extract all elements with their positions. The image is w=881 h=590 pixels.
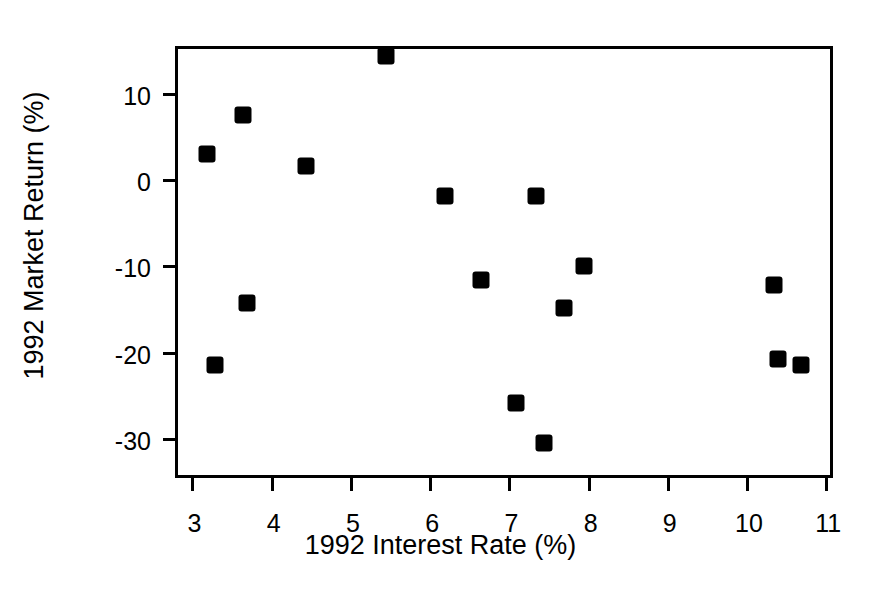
y-axis-tick-label: -30 [115, 428, 151, 453]
data-point [238, 295, 255, 312]
x-axis-tick: 10 [746, 475, 749, 491]
x-axis-tick: 5 [350, 475, 353, 491]
data-point [536, 435, 553, 452]
scatter-plot-figure: 1992 Market Return (%) 100-10-20-30 3456… [0, 0, 881, 590]
data-point [234, 107, 251, 124]
y-axis-title-text: 1992 Market Return (%) [21, 91, 48, 379]
data-point [377, 47, 394, 64]
data-point [528, 188, 545, 205]
y-axis-tick-label: 10 [123, 83, 151, 108]
data-point [769, 350, 786, 367]
x-axis-tick: 4 [271, 475, 274, 491]
data-point [199, 146, 216, 163]
y-axis-tick: 10 [163, 93, 178, 96]
data-point [472, 272, 489, 289]
x-axis-tick: 8 [588, 475, 591, 491]
y-axis-tick-label: -10 [115, 256, 151, 281]
y-axis-tick: -10 [163, 265, 178, 268]
x-axis-title: 1992 Interest Rate (%) [0, 532, 881, 559]
data-point [555, 299, 572, 316]
y-axis-tick: -30 [163, 438, 178, 441]
y-axis-title: 1992 Market Return (%) [14, 0, 54, 470]
plot-frame: 100-10-20-30 34567891011 [175, 46, 833, 478]
data-point [207, 356, 224, 373]
data-point [508, 395, 525, 412]
data-point [298, 158, 315, 175]
data-points-layer [178, 49, 830, 475]
x-axis-title-text: 1992 Interest Rate (%) [305, 530, 577, 560]
x-axis-tick: 11 [825, 475, 828, 491]
data-point [793, 356, 810, 373]
data-point [575, 258, 592, 275]
y-axis-tick-label: -20 [115, 342, 151, 367]
data-point [436, 188, 453, 205]
x-axis-tick: 3 [191, 475, 194, 491]
x-axis-tick: 7 [508, 475, 511, 491]
x-axis-tick: 6 [429, 475, 432, 491]
data-point [765, 277, 782, 294]
y-axis-tick: 0 [163, 179, 178, 182]
y-axis-tick: -20 [163, 352, 178, 355]
y-axis-tick-label: 0 [137, 170, 151, 195]
x-axis-tick: 9 [667, 475, 670, 491]
